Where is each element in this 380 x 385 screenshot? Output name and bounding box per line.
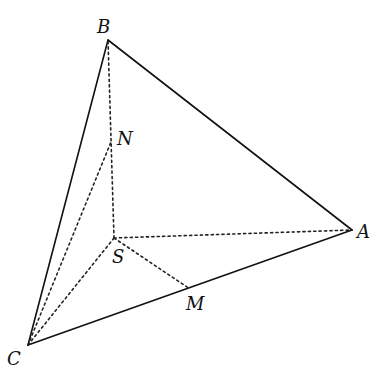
edge-SA xyxy=(114,230,352,238)
edge-BC xyxy=(28,40,108,345)
edge-SB xyxy=(108,40,114,238)
vertex-label-S: S xyxy=(112,246,124,267)
vertex-label-N: N xyxy=(116,128,134,149)
edge-SM xyxy=(114,238,190,289)
vertex-label-C: C xyxy=(7,348,21,369)
edge-BA xyxy=(108,40,352,230)
vertex-label-B: B xyxy=(96,16,110,37)
edge-CA xyxy=(28,230,352,345)
vertex-label-M: M xyxy=(185,293,205,314)
vertex-label-A: A xyxy=(355,221,370,242)
edge-CN xyxy=(28,142,111,345)
tetrahedron-diagram: B N S A M C xyxy=(0,0,380,385)
